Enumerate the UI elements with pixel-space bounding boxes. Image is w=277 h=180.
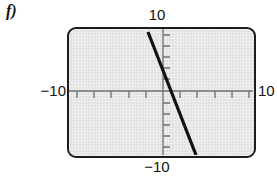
axis-label-x-min: −10	[22, 82, 66, 99]
plotted-line	[148, 32, 196, 155]
plot-area	[69, 29, 253, 155]
graph-figure: f)	[0, 0, 277, 180]
axis-label-x-max: 10	[258, 82, 277, 99]
axis-label-y-max: 10	[136, 6, 178, 23]
axis-label-y-min: −10	[132, 158, 182, 175]
part-label: f)	[6, 2, 17, 20]
calculator-screen	[67, 27, 256, 158]
